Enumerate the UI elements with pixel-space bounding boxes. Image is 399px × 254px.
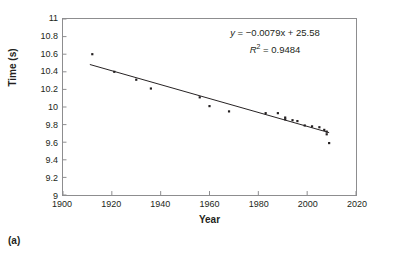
data-point (328, 142, 330, 144)
y-tick-label: 10.4 (40, 67, 58, 76)
data-point (91, 53, 93, 55)
x-tick-label: 1980 (239, 200, 279, 209)
trend-line (90, 64, 329, 132)
y-axis-title: Time (s) (7, 23, 18, 113)
equation-body: = −0.0079x + 25.58 (235, 27, 320, 38)
data-point (311, 125, 313, 127)
x-tick-label: 2020 (337, 200, 377, 209)
y-tick-label: 9.6 (45, 138, 58, 147)
y-tick-label: 10.8 (40, 31, 58, 40)
data-point (304, 124, 306, 126)
data-point (228, 110, 230, 112)
data-point (291, 119, 293, 121)
data-point (284, 118, 286, 120)
data-point (135, 79, 137, 81)
data-point (296, 120, 298, 122)
y-tick-label: 10 (48, 103, 58, 112)
x-tick-label: 1940 (140, 200, 180, 209)
r-squared-value: R2 = 0.9484 (205, 40, 345, 57)
data-point (265, 112, 267, 114)
regression-equation: y = −0.0079x + 25.58 (205, 26, 345, 40)
y-tick-label: 10.2 (40, 85, 58, 94)
data-point (323, 129, 325, 131)
r-squared-symbol: R (250, 44, 257, 55)
x-tick-label: 1900 (42, 200, 82, 209)
y-tick-label: 9.4 (45, 156, 58, 165)
y-tick-label: 9.8 (45, 120, 58, 129)
x-tick-label: 1920 (91, 200, 131, 209)
subfigure-label: (a) (8, 235, 20, 246)
y-tick-label: 10.6 (40, 49, 58, 58)
y-tick-label: 9.2 (45, 174, 58, 183)
x-tick-label: 1960 (190, 200, 230, 209)
data-point (318, 126, 320, 128)
data-point (150, 87, 152, 89)
regression-annotation: y = −0.0079x + 25.58 R2 = 0.9484 (205, 26, 345, 57)
y-tick-label: 11 (49, 14, 58, 23)
figure-container: 99.29.49.69.81010.210.410.610.811 190019… (0, 0, 399, 254)
data-point (199, 96, 201, 98)
data-point (208, 105, 210, 107)
x-axis-title: Year (62, 214, 357, 225)
data-point (326, 131, 328, 133)
data-point (113, 71, 115, 73)
r-squared-body: = 0.9484 (260, 44, 300, 55)
data-point (326, 133, 328, 135)
data-point (277, 112, 279, 114)
x-tick-label: 2000 (288, 200, 328, 209)
